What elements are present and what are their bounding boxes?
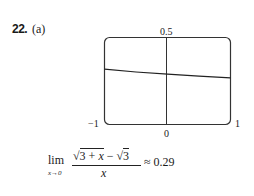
limit-operator: lim <box>48 153 64 168</box>
y-tick-label-top: 0.5 <box>160 26 173 37</box>
minus-sign: − <box>104 149 117 163</box>
limit-subscript: x→0 <box>48 169 62 177</box>
radicand-1-const: 3 + <box>80 149 99 163</box>
fraction-bar <box>72 165 141 166</box>
function-curve <box>105 69 231 78</box>
x-tick-label-origin: 0 <box>164 128 169 139</box>
radicand-2: 3 <box>123 148 129 163</box>
graph <box>0 0 254 196</box>
x-tick-label-left: −1 <box>88 118 99 129</box>
radicand-1: 3 + x <box>80 148 104 163</box>
graph-frame <box>105 38 231 125</box>
x-tick-label-right: 1 <box>235 118 240 129</box>
fraction-numerator: √3 + x − √3 <box>73 149 129 164</box>
sqrt-icon: √ <box>73 149 80 163</box>
limit-result: ≈ 0.29 <box>144 155 175 170</box>
fraction-denominator: x <box>101 166 106 181</box>
